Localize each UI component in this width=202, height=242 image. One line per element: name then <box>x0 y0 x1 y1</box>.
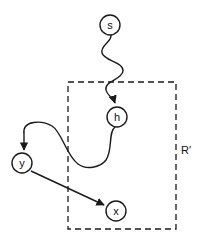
node-h-label: h <box>114 111 120 123</box>
node-h: h <box>107 107 127 127</box>
edge-s-to-h <box>102 35 123 103</box>
node-s: s <box>100 15 120 35</box>
node-y: y <box>12 153 32 173</box>
node-y-label: y <box>19 157 25 169</box>
node-x-label: x <box>113 205 119 217</box>
region-label: R′ <box>181 144 191 156</box>
graph-diagram: R′ s h y x <box>0 0 202 242</box>
node-x: x <box>106 201 126 221</box>
edge-h-to-y <box>24 122 115 167</box>
node-s-label: s <box>107 19 113 31</box>
